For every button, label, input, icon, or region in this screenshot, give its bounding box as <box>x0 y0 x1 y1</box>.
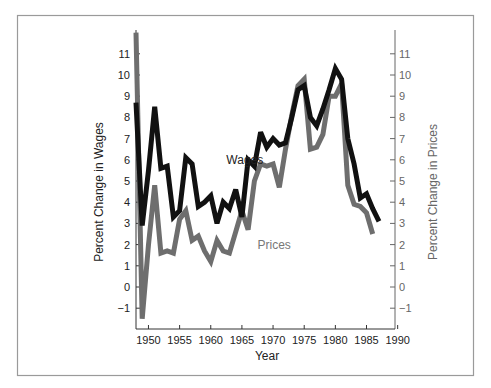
x-tick-label: 1965 <box>230 334 254 346</box>
x-tick-label: 1975 <box>292 334 316 346</box>
right-y-tick-label: 6 <box>399 154 405 166</box>
x-tick-label: 1955 <box>167 334 191 346</box>
left-y-tick-label: 2 <box>124 239 130 251</box>
x-axis-title: Year <box>255 349 279 363</box>
left-y-tick-label: 6 <box>124 154 130 166</box>
right-y-axis-title: Percent Change in Prices <box>426 124 440 260</box>
left-y-tick-label: 3 <box>124 217 130 229</box>
left-y-tick-label: 4 <box>124 196 130 208</box>
x-tick-label: 1960 <box>199 334 223 346</box>
right-y-tick-label: 3 <box>399 217 405 229</box>
right-y-tick-label: 8 <box>399 111 405 123</box>
left-y-axis-title: Percent Change in Wages <box>92 122 106 262</box>
right-y-tick-label: 4 <box>399 196 405 208</box>
left-y-tick-label: 0 <box>124 281 130 293</box>
left-y-tick-label: 11 <box>119 48 130 60</box>
x-tick-label: 1990 <box>385 334 409 346</box>
x-tick-label: 1985 <box>354 334 378 346</box>
left-y-tick-label: 5 <box>124 175 130 187</box>
right-y-tick-label: −1 <box>399 302 412 314</box>
left-y-tick-label: 8 <box>124 111 130 123</box>
x-tick-label: 1950 <box>136 334 160 346</box>
left-y-tick-label: 1 <box>124 260 130 272</box>
right-y-tick-label: 2 <box>399 239 405 251</box>
right-y-tick-label: 5 <box>399 175 405 187</box>
right-y-tick-label: 7 <box>399 133 405 145</box>
series-label-prices: Prices <box>257 238 290 252</box>
left-y-tick-label: 9 <box>124 90 130 102</box>
right-y-tick-label: 0 <box>399 281 405 293</box>
right-y-tick-label: 9 <box>399 90 405 102</box>
right-y-tick-label: 11 <box>399 48 410 60</box>
x-tick-label: 1970 <box>261 334 285 346</box>
left-y-tick-label: 7 <box>124 133 130 145</box>
x-tick-label: 1980 <box>323 334 347 346</box>
right-y-tick-label: 1 <box>399 260 405 272</box>
series-label-wages: Wages <box>226 153 263 167</box>
left-y-tick-label: 10 <box>118 69 130 81</box>
right-y-tick-label: 10 <box>399 69 411 81</box>
chart: −101234567891011 −101234567891011 195019… <box>0 0 491 388</box>
left-y-tick-label: −1 <box>117 302 130 314</box>
